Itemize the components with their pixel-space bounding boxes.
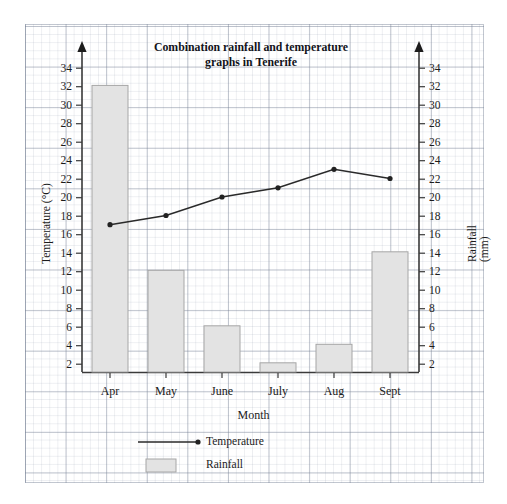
right-tick-18: 18 [429,210,459,222]
left-tick-32: 32 [42,80,72,92]
right-tick-2: 2 [429,358,459,370]
point-june [219,194,224,199]
right-tick-26: 26 [429,136,459,148]
x-tick-sept: Sept [360,384,420,399]
chart-title-line-2: graphs in Tenerife [205,55,297,69]
bar-aug [316,344,352,372]
bar-july [260,363,296,372]
right-tick-4: 4 [429,339,459,351]
right-tick-34: 34 [429,62,459,74]
left-axis [77,41,86,372]
x-tick-apr: Apr [80,384,140,399]
bar-apr [92,85,128,372]
left-tick-24: 24 [42,154,72,166]
left-tick-6: 6 [42,321,72,333]
legend-label-rainfall: Rainfall [206,458,243,470]
legend-marker-temperature [138,439,201,444]
legend-label-temperature: Temperature [206,435,264,447]
x-tick-may: May [136,384,196,399]
chart-canvas: Combination rainfall and temperature gra… [0,0,507,504]
left-tick-10: 10 [42,284,72,296]
right-tick-14: 14 [429,247,459,259]
left-tick-8: 8 [42,302,72,314]
right-tick-28: 28 [429,117,459,129]
right-tick-30: 30 [429,99,459,111]
right-tick-24: 24 [429,154,459,166]
point-aug [331,167,336,172]
right-tick-32: 32 [429,80,459,92]
right-tick-22: 22 [429,173,459,185]
temperature-line [107,167,392,228]
right-tick-10: 10 [429,284,459,296]
right-axis-title: Rainfall (mm) [466,221,490,262]
left-tick-4: 4 [42,339,72,351]
left-axis-title: Temperature (°C) [40,183,52,264]
x-tick-aug: Aug [304,384,364,399]
bar-may [148,270,184,372]
x-tick-july: July [248,384,308,399]
right-tick-12: 12 [429,265,459,277]
point-july [275,185,280,190]
right-axis [414,41,423,372]
bar-sept [372,252,408,372]
legend-marker-rainfall [146,459,176,472]
point-apr [107,222,112,227]
point-may [163,213,168,218]
bar-june [204,326,240,372]
rainfall-bars [92,85,408,372]
left-axis-ticks [76,68,82,364]
left-tick-26: 26 [42,136,72,148]
chart-title: Combination rainfall and temperature gra… [120,40,382,69]
right-tick-6: 6 [429,321,459,333]
left-tick-2: 2 [42,358,72,370]
x-tick-june: June [192,384,252,399]
left-tick-30: 30 [42,99,72,111]
x-axis-title: Month [0,408,507,423]
right-tick-8: 8 [429,302,459,314]
left-tick-34: 34 [42,62,72,74]
left-tick-12: 12 [42,265,72,277]
chart-title-line-1: Combination rainfall and temperature [154,40,348,54]
left-tick-28: 28 [42,117,72,129]
point-sept [387,176,392,181]
right-tick-20: 20 [429,191,459,203]
right-tick-16: 16 [429,228,459,240]
right-axis-ticks [419,68,425,364]
